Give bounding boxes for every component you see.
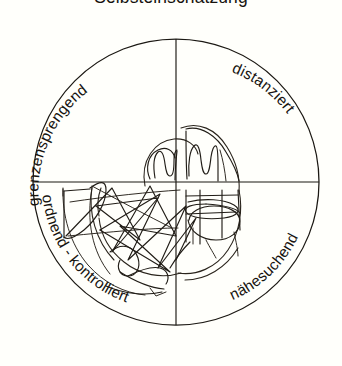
quadrant-label-upper-right: distanziert (230, 59, 299, 117)
quadrant-label-lower-left: ordnend - kontrolliert (39, 193, 132, 305)
quadrant-label-lower-right-text: nähesuchend (227, 230, 301, 303)
blob-outline-lower-right (178, 190, 241, 274)
quadrant-label-upper-right-text: distanziert (230, 59, 299, 117)
quadrant-label-upper-left-text: grenzensprengend (24, 81, 90, 207)
quadrant-label-lower-left-text: ordnend - kontrolliert (39, 193, 132, 305)
blob-outline-upper-left (144, 139, 198, 186)
quadrant-label-lower-right: nähesuchend (227, 230, 301, 303)
diagram-stage: Selbsteinschätzung (0, 0, 342, 366)
selbsteinschaetzung-diagram: grenzensprengend distanziert ordnend - k… (0, 0, 342, 366)
quadrant-label-upper-left: grenzensprengend (24, 81, 90, 207)
scribble-upper-left (148, 148, 177, 180)
blob-outline-lower-arc (185, 248, 238, 280)
